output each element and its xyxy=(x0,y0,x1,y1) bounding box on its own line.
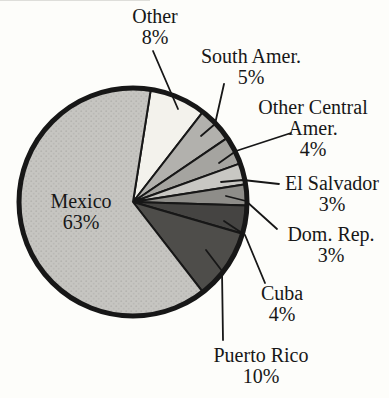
pie-chart xyxy=(0,0,389,398)
chart-area: Other8%South Amer.5%Other CentralAmer.4%… xyxy=(0,0,389,398)
